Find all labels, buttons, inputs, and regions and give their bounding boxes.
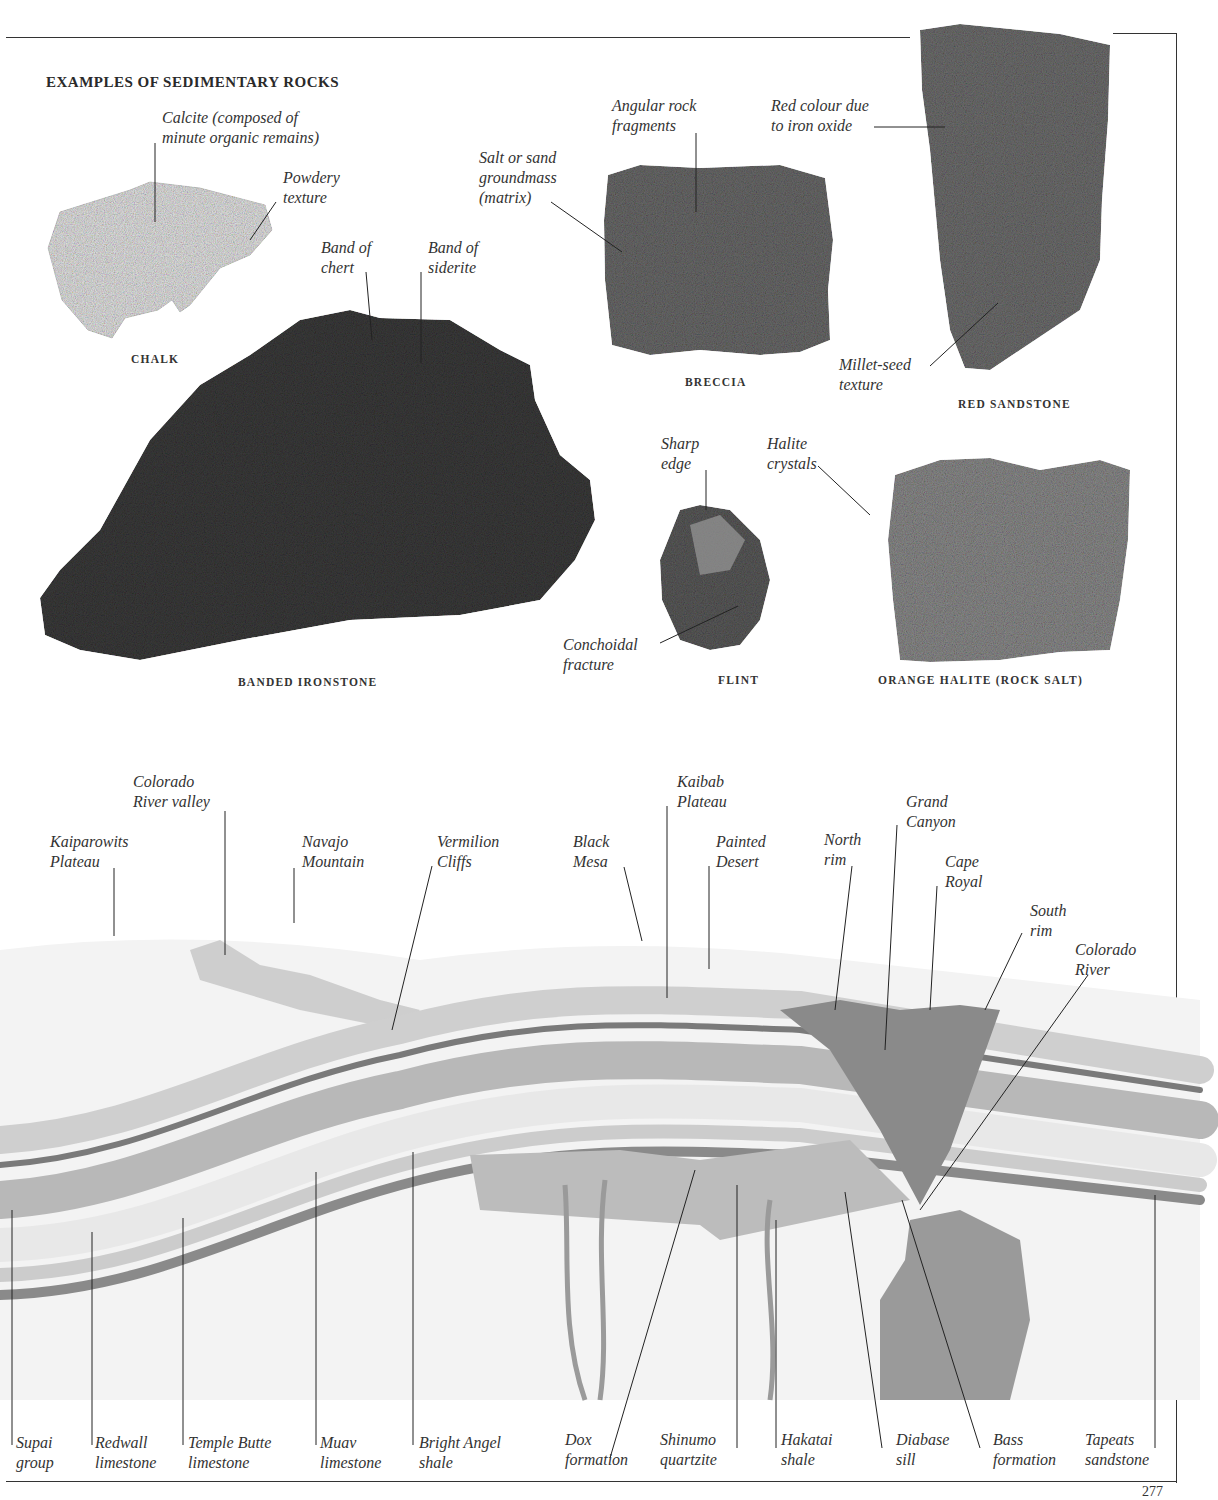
label-supai-group: Supai group — [16, 1433, 54, 1473]
label-kaiparowits-plateau: Kaiparowits Plateau — [50, 832, 129, 872]
label-vermilion-cliffs: Vermilion Cliffs — [437, 832, 499, 872]
label-redwall-limestone: Redwall limestone — [95, 1433, 156, 1473]
label-diabase-sill: Diabase sill — [896, 1430, 949, 1470]
label-colorado-river: Colorado River — [1075, 940, 1136, 980]
label-south-rim: South rim — [1030, 901, 1066, 941]
label-navajo-mountain: Navajo Mountain — [302, 832, 364, 872]
label-shinumo-quartzite: Shinumo quartzite — [660, 1430, 717, 1470]
label-bright-angel-shale: Bright Angel shale — [419, 1433, 501, 1473]
label-hakatai-shale: Hakatai shale — [781, 1430, 833, 1470]
label-dox-formation: Dox formation — [565, 1430, 628, 1470]
label-north-rim: North rim — [824, 830, 861, 870]
label-tapeats-sandstone: Tapeats sandstone — [1085, 1430, 1149, 1470]
label-grand-canyon: Grand Canyon — [906, 792, 956, 832]
label-colorado-river-valley: Colorado River valley — [133, 772, 210, 812]
page-number: 277 — [1142, 1484, 1163, 1500]
label-kaibab-plateau: Kaibab Plateau — [677, 772, 727, 812]
label-muav-limestone: Muav limestone — [320, 1433, 381, 1473]
label-black-mesa: Black Mesa — [573, 832, 609, 872]
label-temple-butte-limestone: Temple Butte limestone — [188, 1433, 271, 1473]
label-bass-formation: Bass formation — [993, 1430, 1056, 1470]
label-painted-desert: Painted Desert — [716, 832, 766, 872]
label-cape-royal: Cape Royal — [945, 852, 982, 892]
